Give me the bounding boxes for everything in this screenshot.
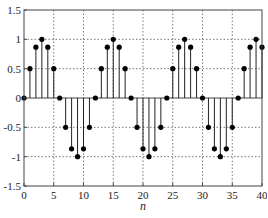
- y-tick-label: -1.5: [4, 180, 22, 192]
- stem-marker: [105, 45, 110, 50]
- stem-marker: [248, 45, 253, 50]
- stem-marker: [152, 146, 157, 151]
- stem-marker: [188, 45, 193, 50]
- stem-marker: [57, 95, 62, 100]
- stem-marker: [33, 45, 38, 50]
- stem-marker: [253, 37, 258, 42]
- stem-marker: [230, 125, 235, 130]
- stem-marker: [146, 154, 151, 159]
- x-axis-label: n: [140, 199, 146, 213]
- stem-marker: [93, 95, 98, 100]
- stem-marker: [140, 146, 145, 151]
- x-tick-label: 30: [197, 189, 209, 201]
- x-tick-label: 40: [257, 189, 268, 201]
- stem-marker: [206, 125, 211, 130]
- stem-marker: [224, 146, 229, 151]
- stem-marker: [134, 125, 139, 130]
- stem-chart: 1.510.50-0.5-1-1.5 0510152025303540 n: [0, 0, 267, 218]
- x-tick-label: 5: [51, 189, 57, 201]
- stem-marker: [242, 66, 247, 71]
- stem-marker: [129, 95, 134, 100]
- stem-marker: [27, 66, 32, 71]
- stem-marker: [236, 95, 241, 100]
- x-tick-label: 10: [78, 189, 90, 201]
- stem-marker: [111, 37, 116, 42]
- y-tick-label: -1: [12, 151, 21, 163]
- stem-marker: [87, 125, 92, 130]
- y-tick-label: 0: [16, 92, 22, 104]
- stem-marker: [212, 146, 217, 151]
- stem-marker: [75, 154, 80, 159]
- stem-marker: [164, 95, 169, 100]
- stem-marker: [39, 37, 44, 42]
- stem-marker: [170, 66, 175, 71]
- stem-marker: [99, 66, 104, 71]
- stem-series: [21, 37, 264, 160]
- stem-marker: [218, 154, 223, 159]
- stem-marker: [182, 37, 187, 42]
- y-tick-label: 0.5: [7, 63, 21, 75]
- stem-marker: [176, 45, 181, 50]
- stem-marker: [81, 146, 86, 151]
- stem-marker: [200, 95, 205, 100]
- stem-marker: [158, 125, 163, 130]
- stem-marker: [194, 66, 199, 71]
- stem-marker: [45, 45, 50, 50]
- x-tick-label: 25: [167, 189, 179, 201]
- x-tick-label: 35: [227, 189, 239, 201]
- stem-marker: [123, 66, 128, 71]
- y-tick-label: 1: [16, 33, 22, 45]
- x-tick-label: 15: [108, 189, 120, 201]
- stem-marker: [51, 66, 56, 71]
- y-tick-label: 1.5: [7, 4, 21, 16]
- y-tick-label: -0.5: [4, 121, 22, 133]
- x-tick-label: 0: [21, 189, 27, 201]
- stem-marker: [69, 146, 74, 151]
- stem-marker: [63, 125, 68, 130]
- stem-marker: [117, 45, 122, 50]
